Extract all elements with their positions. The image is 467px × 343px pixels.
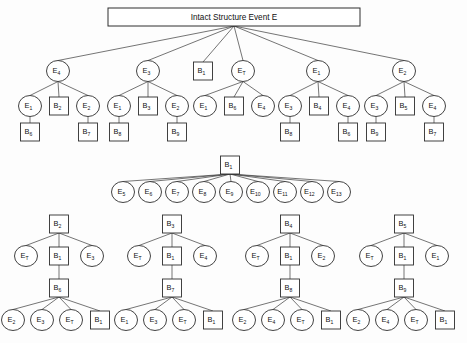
- basic-event-node[interactable]: B1: [91, 311, 110, 329]
- event-node[interactable]: E2: [2, 310, 25, 331]
- tree-edge: [205, 82, 243, 96]
- basic-event-node[interactable]: B6: [21, 123, 40, 141]
- basic-event-node[interactable]: B1: [194, 62, 213, 80]
- fault-tree-canvas: Intact Structure Event EE4E3B1ETE1E2E1B2…: [0, 0, 467, 343]
- event-node[interactable]: ET: [128, 246, 151, 267]
- event-node[interactable]: E4: [423, 96, 446, 117]
- event-node[interactable]: E3: [137, 61, 160, 82]
- node-layer: Intact Structure Event EE4E3B1ETE1E2E1B2…: [2, 8, 455, 331]
- basic-event-node[interactable]: B6: [50, 279, 69, 297]
- basic-event-node[interactable]: B4: [310, 97, 329, 115]
- basic-event-node[interactable]: B1: [163, 247, 182, 265]
- event-node[interactable]: ET: [232, 61, 255, 82]
- event-node[interactable]: E4: [47, 61, 70, 82]
- event-node[interactable]: E4: [194, 246, 217, 267]
- event-node[interactable]: E4: [376, 310, 399, 331]
- basic-event-node[interactable]: B5: [395, 215, 414, 233]
- tree-edge: [230, 174, 285, 182]
- basic-event-node[interactable]: B1: [50, 247, 69, 265]
- event-node[interactable]: E3: [279, 96, 302, 117]
- event-node[interactable]: E1: [19, 96, 42, 117]
- event-node[interactable]: E10: [247, 182, 270, 203]
- basic-event-node[interactable]: B9: [367, 123, 386, 141]
- tree-edge: [234, 82, 243, 98]
- tree-edge: [371, 233, 404, 246]
- basic-event-node[interactable]: B7: [79, 123, 98, 141]
- event-node[interactable]: E1: [307, 61, 330, 82]
- tree-edge: [290, 297, 331, 311]
- tree-edge: [139, 233, 172, 246]
- event-node[interactable]: E6: [139, 182, 162, 203]
- event-node[interactable]: ET: [360, 246, 383, 267]
- event-node[interactable]: E3: [31, 310, 54, 331]
- basic-event-node[interactable]: B3: [163, 215, 182, 233]
- tree-edge: [58, 82, 88, 96]
- basic-event-node[interactable]: B6: [225, 97, 244, 115]
- basic-event-node[interactable]: B4: [281, 215, 300, 233]
- tree-edge: [42, 297, 59, 310]
- event-node[interactable]: E1: [426, 246, 449, 267]
- event-node[interactable]: E3: [365, 96, 388, 117]
- event-node[interactable]: E2: [347, 310, 370, 331]
- event-node[interactable]: E8: [193, 182, 216, 203]
- event-node[interactable]: E7: [166, 182, 189, 203]
- event-node[interactable]: E1: [108, 96, 131, 117]
- event-node[interactable]: E12: [301, 182, 324, 203]
- event-node[interactable]: E3: [144, 310, 167, 331]
- basic-event-node[interactable]: B8: [281, 123, 300, 141]
- event-node[interactable]: E2: [166, 96, 189, 117]
- basic-event-node[interactable]: B9: [168, 123, 187, 141]
- tree-edge: [172, 297, 213, 311]
- basic-event-node[interactable]: B3: [139, 97, 158, 115]
- tree-edge: [13, 297, 59, 310]
- basic-event-node[interactable]: B2: [50, 97, 69, 115]
- tree-edge: [58, 26, 234, 61]
- event-node[interactable]: E3: [81, 246, 104, 267]
- event-node[interactable]: ET: [291, 310, 314, 331]
- tree-edge: [404, 233, 437, 246]
- root-box-label: Intact Structure Event E: [191, 13, 278, 22]
- event-node[interactable]: E1: [115, 310, 138, 331]
- tree-edge: [30, 82, 58, 96]
- tree-edge: [244, 297, 290, 310]
- event-node[interactable]: E1: [194, 96, 217, 117]
- event-node[interactable]: E5: [112, 182, 135, 203]
- event-node[interactable]: E11: [274, 182, 297, 203]
- event-node[interactable]: E2: [233, 310, 256, 331]
- event-node[interactable]: ET: [405, 310, 428, 331]
- basic-event-node[interactable]: B1: [281, 247, 300, 265]
- basic-event-node[interactable]: B8: [110, 123, 129, 141]
- basic-event-node[interactable]: B8: [281, 279, 300, 297]
- basic-event-node[interactable]: B1: [204, 311, 223, 329]
- event-node[interactable]: ET: [60, 310, 83, 331]
- tree-edge: [59, 233, 92, 246]
- basic-event-node[interactable]: B6: [339, 123, 358, 141]
- tree-edge: [290, 82, 318, 96]
- basic-event-node[interactable]: B1: [322, 311, 341, 329]
- basic-event-node[interactable]: B1: [221, 156, 240, 174]
- basic-event-node[interactable]: B7: [425, 123, 444, 141]
- event-node[interactable]: E2: [77, 96, 100, 117]
- event-node[interactable]: E2: [393, 61, 416, 82]
- event-node[interactable]: E4: [252, 96, 275, 117]
- event-node[interactable]: E13: [328, 182, 351, 203]
- event-node[interactable]: E4: [262, 310, 285, 331]
- tree-edge: [387, 297, 404, 310]
- tree-edge: [257, 233, 290, 246]
- basic-event-node[interactable]: B9: [395, 279, 414, 297]
- event-node[interactable]: E9: [220, 182, 243, 203]
- event-node[interactable]: E4: [337, 96, 360, 117]
- event-node[interactable]: ET: [173, 310, 196, 331]
- root-event-box[interactable]: Intact Structure Event E: [108, 8, 360, 26]
- basic-event-node[interactable]: B1: [436, 311, 455, 329]
- tree-edge: [404, 297, 445, 311]
- tree-edge: [148, 26, 234, 61]
- basic-event-node[interactable]: B2: [50, 215, 69, 233]
- basic-event-node[interactable]: B7: [163, 279, 182, 297]
- event-node[interactable]: ET: [246, 246, 269, 267]
- basic-event-node[interactable]: B5: [396, 97, 415, 115]
- basic-event-node[interactable]: B1: [395, 247, 414, 265]
- tree-edge: [290, 233, 323, 246]
- event-node[interactable]: ET: [15, 246, 38, 267]
- event-node[interactable]: E2: [312, 246, 335, 267]
